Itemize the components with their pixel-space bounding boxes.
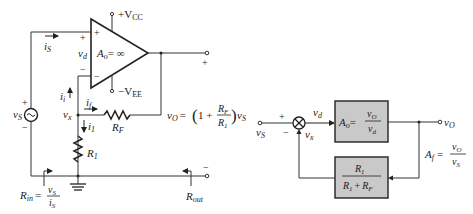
feedback-block-diagram: vS + − vx vd Ao= vO vd vO R1 R1+RF: [256, 101, 466, 198]
svg-text:vO=: vO=: [167, 109, 186, 123]
opamp-gain-label: Ao= ∞: [96, 47, 125, 61]
rout-label: Rout: [185, 190, 204, 204]
svg-text:1 +: 1 +: [198, 109, 212, 121]
svg-text:): ): [231, 106, 237, 125]
vx-label: vx: [63, 108, 72, 122]
noninverting-amplifier-circuit: +VCC −VEE + − Ao= ∞ iS + vd − ii vx if i…: [13, 8, 246, 210]
summer-minus-sign: −: [283, 127, 289, 138]
opamp-minus-sign: −: [94, 71, 100, 82]
vcc-terminal: [110, 12, 113, 15]
diagram-canvas: +VCC −VEE + − Ao= ∞ iS + vd − ii vx if i…: [0, 0, 473, 214]
bd-input-label: vS: [256, 126, 265, 140]
output-minus-sign: −: [203, 162, 209, 173]
source-minus-sign: −: [22, 122, 28, 133]
bd-output-label: vO: [444, 116, 455, 130]
svg-text:RF: RF: [217, 103, 229, 116]
bd-vd-label: vd: [313, 106, 323, 120]
vee-terminal: [110, 89, 113, 92]
ii-label: ii: [60, 90, 65, 104]
output-plus-terminal: [205, 51, 209, 55]
bd-input-terminal: [258, 121, 262, 125]
output-node: [160, 52, 163, 55]
svg-text:Af=: Af=: [424, 148, 443, 162]
source-plus-sign: +: [22, 97, 28, 108]
rf-resistor: [104, 111, 130, 119]
output-plus-sign: +: [202, 57, 208, 68]
output-minus-terminal: [205, 174, 209, 178]
vd-plus-sign: +: [80, 32, 86, 43]
output-equation: vO= ( 1 + RF R1 ) vS: [167, 103, 246, 130]
vcc-label: +VCC: [118, 8, 143, 22]
rin-label: Rin=: [19, 189, 41, 203]
svg-text:R1: R1: [217, 117, 228, 130]
i1-label: i1: [88, 120, 95, 134]
opamp-plus-sign: +: [94, 27, 100, 38]
bd-vx-label: vx: [305, 128, 314, 142]
is-label: iS: [44, 40, 51, 54]
feedback-block: [335, 157, 388, 198]
if-label: if: [86, 96, 93, 110]
summer-plus-sign: +: [279, 111, 285, 122]
closed-loop-gain-equation: Af= vO vS: [424, 141, 466, 169]
svg-text:vS: vS: [237, 109, 246, 123]
svg-text:vS: vS: [452, 156, 460, 169]
vd-minus-sign: −: [80, 64, 86, 75]
summing-junction-icon: [293, 117, 305, 129]
ground-icon: [70, 176, 86, 190]
vd-label: vd: [78, 47, 88, 61]
svg-text:vO: vO: [452, 141, 462, 154]
rf-label: RF: [111, 121, 124, 135]
bd-output-terminal: [438, 120, 442, 124]
rin-num: vS: [48, 184, 56, 197]
rout-arrow: [183, 171, 191, 186]
vee-label: −VEE: [118, 85, 142, 99]
r1-label: R1: [86, 147, 98, 161]
rin-den: iS: [49, 197, 56, 210]
vs-label: vS: [13, 108, 22, 122]
